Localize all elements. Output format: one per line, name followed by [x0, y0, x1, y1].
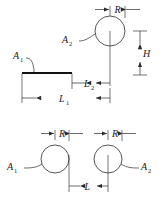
l2-subscript: 2 [91, 84, 94, 91]
bottom-right-radius-dimension: R [94, 128, 136, 141]
a2-leader-line [79, 34, 95, 41]
a1-label-top: A [12, 50, 20, 61]
l2-dimension: L 2 [72, 78, 110, 91]
a2-label-bottom: A [140, 161, 148, 172]
l2-label: L [83, 78, 90, 89]
l1-label: L [58, 93, 65, 104]
a2-subscript-top: 2 [69, 40, 72, 47]
height-label: H [142, 48, 151, 59]
top-radius-label: R [114, 4, 121, 15]
height-dimension: H [133, 31, 151, 75]
l-separation-label: L [84, 181, 91, 192]
bottom-a1-leader-line [24, 164, 42, 168]
l1-subscript: 1 [66, 99, 69, 106]
top-radius-dimension: R [95, 4, 140, 18]
l-separation-dimension: L [69, 181, 108, 192]
engineering-diagram: R A 2 H A 1 L 2 [0, 0, 165, 198]
a1-leader-line [26, 58, 34, 72]
a1-subscript-top: 1 [20, 56, 23, 63]
br-radius-label: R [111, 128, 118, 139]
bottom-left-radius-dimension: R [41, 128, 83, 141]
a1-subscript-bottom: 1 [14, 167, 17, 174]
a1-label-bottom: A [6, 161, 14, 172]
l1-dimension: L 1 [22, 88, 110, 106]
a2-label-top: A [61, 34, 69, 45]
bl-radius-label: R [58, 128, 65, 139]
bottom-left-cylinder-circle [41, 145, 69, 173]
a2-subscript-bottom: 2 [148, 167, 151, 174]
bottom-a2-leader-line [121, 164, 139, 168]
figure-container: R A 2 H A 1 L 2 [0, 0, 165, 198]
